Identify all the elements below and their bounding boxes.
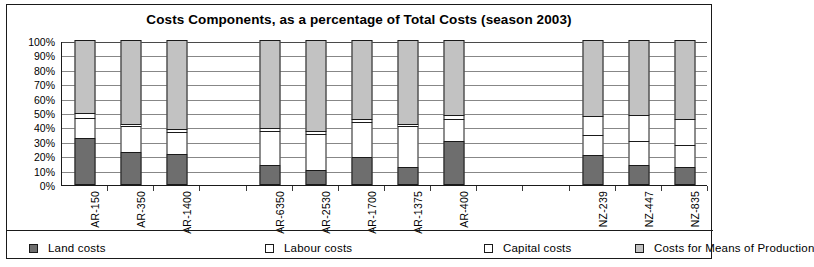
x-axis-label: AR-350 — [135, 191, 147, 228]
bar-segment[interactable] — [305, 40, 326, 132]
y-tick-label: 70% — [34, 80, 55, 90]
bar-segment[interactable] — [674, 145, 695, 168]
bar-segment[interactable] — [398, 40, 419, 125]
y-tick-label: 40% — [34, 123, 55, 133]
x-axis-label: AR-6350 — [274, 191, 286, 234]
bar-segment[interactable] — [674, 40, 695, 120]
bar-slot — [62, 42, 108, 185]
bar-segment[interactable] — [398, 126, 419, 167]
bar-slot — [570, 42, 616, 185]
bar-segment[interactable] — [628, 40, 649, 116]
legend-item[interactable]: Labour costs — [265, 242, 352, 254]
x-axis-label: AR-150 — [89, 191, 101, 228]
bar-segment[interactable] — [75, 138, 96, 185]
x-axis-label: AR-1400 — [181, 191, 193, 234]
bar-segment[interactable] — [351, 157, 372, 185]
stacked-bar[interactable] — [75, 42, 96, 185]
y-tick-label: 100% — [28, 37, 55, 47]
bar-segment[interactable] — [121, 126, 142, 153]
bar-segment[interactable] — [351, 122, 372, 158]
plot-area — [61, 42, 707, 186]
stacked-bar[interactable] — [121, 42, 142, 185]
bar-slot — [662, 42, 708, 185]
plot-wrapper: 100%90%80%70%60%50%40%30%20%10%0% AR-150… — [7, 31, 713, 216]
y-tick-label: 20% — [34, 152, 55, 162]
y-tick-label: 80% — [34, 66, 55, 76]
x-axis-label: NZ-835 — [689, 191, 701, 227]
bar-slot — [108, 42, 154, 185]
x-axis-label: NZ-447 — [643, 191, 655, 227]
bar-segment[interactable] — [167, 40, 188, 130]
bar-segment[interactable] — [75, 40, 96, 114]
stacked-bar[interactable] — [351, 42, 372, 185]
bar-segment[interactable] — [398, 167, 419, 185]
y-tick-label: 0% — [40, 181, 55, 191]
bar-segment[interactable] — [259, 165, 280, 185]
bar-segment[interactable] — [444, 119, 465, 142]
legend-item[interactable]: Capital costs — [484, 242, 571, 254]
bar-segment[interactable] — [674, 167, 695, 185]
stacked-bar[interactable] — [167, 42, 188, 185]
y-axis-labels: 100%90%80%70%60%50%40%30%20%10%0% — [7, 31, 59, 186]
bar-segment[interactable] — [351, 40, 372, 120]
bar-slot — [154, 42, 200, 185]
stacked-bar[interactable] — [305, 42, 326, 185]
bar-slot — [616, 42, 662, 185]
x-axis-labels: AR-150AR-350AR-1400AR-6350AR-2530AR-1700… — [61, 191, 707, 216]
bar-segment[interactable] — [444, 40, 465, 116]
x-axis-label: NZ-239 — [597, 191, 609, 227]
x-axis-label: AR-2530 — [320, 191, 332, 234]
y-tick-label: 50% — [34, 109, 55, 119]
bar-segment[interactable] — [305, 170, 326, 185]
land-swatch — [29, 244, 38, 253]
bar-slot — [385, 42, 431, 185]
legend-label: Costs for Means of Production — [654, 242, 814, 254]
legend-item[interactable]: Costs for Means of Production — [635, 242, 814, 254]
bars-layer — [62, 42, 707, 185]
bar-slot — [247, 42, 293, 185]
chart-legend: Land costsLabour costsCapital costsCosts… — [7, 231, 713, 259]
bar-segment[interactable] — [121, 152, 142, 185]
x-axis-label: AR-1700 — [366, 191, 378, 234]
chart-frame: Costs Components, as a percentage of Tot… — [6, 4, 712, 259]
bar-segment[interactable] — [582, 116, 603, 136]
y-tick-label: 90% — [34, 51, 55, 61]
stacked-bar[interactable] — [259, 42, 280, 185]
y-tick-label: 30% — [34, 138, 55, 148]
legend-label: Labour costs — [284, 242, 352, 254]
bar-slot — [431, 42, 477, 185]
bar-segment[interactable] — [628, 165, 649, 185]
stacked-bar[interactable] — [674, 42, 695, 185]
x-axis-label: AR-400 — [458, 191, 470, 228]
bar-segment[interactable] — [582, 155, 603, 185]
stacked-bar[interactable] — [582, 42, 603, 185]
labour-swatch — [265, 244, 274, 253]
legend-label: Capital costs — [503, 242, 571, 254]
legend-item[interactable]: Land costs — [29, 242, 106, 254]
bar-segment[interactable] — [582, 135, 603, 156]
stacked-bar[interactable] — [398, 42, 419, 185]
chart-title: Costs Components, as a percentage of Tot… — [7, 12, 711, 27]
means-swatch — [635, 244, 644, 253]
y-tick-label: 60% — [34, 95, 55, 105]
bar-segment[interactable] — [121, 40, 142, 125]
bar-segment[interactable] — [444, 141, 465, 185]
stacked-bar[interactable] — [444, 42, 465, 185]
y-tick-label: 10% — [34, 167, 55, 177]
bar-segment[interactable] — [167, 154, 188, 185]
bar-segment[interactable] — [628, 141, 649, 166]
x-axis-label: AR-1375 — [412, 191, 424, 234]
capital-swatch — [484, 244, 493, 253]
bar-segment[interactable] — [167, 132, 188, 155]
bar-segment[interactable] — [305, 134, 326, 171]
bar-segment[interactable] — [628, 115, 649, 142]
bar-segment[interactable] — [259, 131, 280, 167]
bar-segment[interactable] — [75, 118, 96, 139]
bar-slot — [293, 42, 339, 185]
stacked-bar[interactable] — [628, 42, 649, 185]
bar-segment[interactable] — [582, 40, 603, 117]
x-axis-tick — [707, 186, 708, 191]
bar-segment[interactable] — [674, 119, 695, 146]
legend-label: Land costs — [48, 242, 106, 254]
bar-segment[interactable] — [259, 40, 280, 129]
